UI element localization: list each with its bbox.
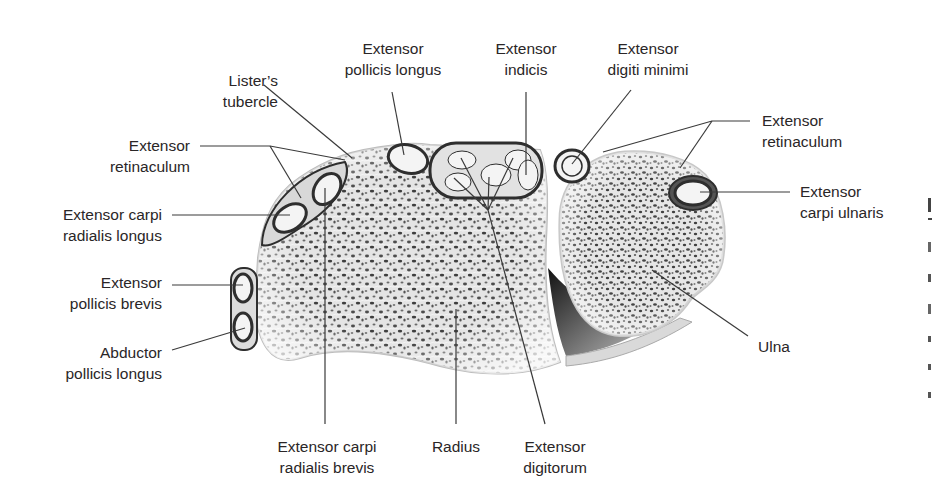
label-line: Extensor [90, 135, 190, 156]
label-line: radialis longus [30, 225, 162, 246]
label-extensor-digiti-minimi: Extensor digiti minimi [593, 38, 703, 80]
label-line: Abductor [30, 342, 162, 363]
clipped-adjacent-text [926, 196, 934, 486]
label-line: Extensor [330, 38, 456, 59]
label-ulna: Ulna [758, 336, 818, 357]
label-extensor-pollicis-longus: Extensor pollicis longus [330, 38, 456, 80]
label-line: Lister’s [198, 70, 278, 91]
label-line: indicis [476, 59, 576, 80]
label-line: Extensor [762, 110, 872, 131]
label-line: Extensor [476, 38, 576, 59]
label-line: tubercle [198, 91, 278, 112]
label-line: Radius [420, 436, 492, 457]
label-line: Extensor carpi [30, 204, 162, 225]
label-line: Extensor [593, 38, 703, 59]
label-line: pollicis longus [30, 363, 162, 384]
label-line: Extensor carpi [262, 436, 392, 457]
label-line: pollicis longus [330, 59, 456, 80]
label-extensor-pollicis-brevis: Extensor pollicis brevis [30, 272, 162, 314]
label-line: Ulna [758, 336, 818, 357]
label-extensor-digitorum: Extensor digitorum [510, 436, 600, 478]
label-line: digiti minimi [593, 59, 703, 80]
label-extensor-carpi-ulnaris: Extensor carpi ulnaris [800, 181, 920, 223]
anatomy-figure: Lister’s tubercle Extensor retinaculum E… [0, 0, 934, 500]
label-listers-tubercle: Lister’s tubercle [198, 70, 278, 112]
label-line: pollicis brevis [30, 293, 162, 314]
label-extensor-carpi-radialis-brevis: Extensor carpi radialis brevis [262, 436, 392, 478]
label-extensor-carpi-radialis-longus: Extensor carpi radialis longus [30, 204, 162, 246]
label-radius: Radius [420, 436, 492, 457]
label-line: radialis brevis [262, 457, 392, 478]
label-line: retinaculum [762, 131, 872, 152]
label-line: retinaculum [90, 156, 190, 177]
label-abductor-pollicis-longus: Abductor pollicis longus [30, 342, 162, 384]
label-extensor-retinaculum-left: Extensor retinaculum [90, 135, 190, 177]
label-line: Extensor [30, 272, 162, 293]
label-extensor-indicis: Extensor indicis [476, 38, 576, 80]
cross-section-illustration [0, 0, 934, 500]
label-line: carpi ulnaris [800, 202, 920, 223]
label-line: Extensor [800, 181, 920, 202]
label-extensor-retinaculum-right: Extensor retinaculum [762, 110, 872, 152]
label-line: Extensor [510, 436, 600, 457]
label-line: digitorum [510, 457, 600, 478]
